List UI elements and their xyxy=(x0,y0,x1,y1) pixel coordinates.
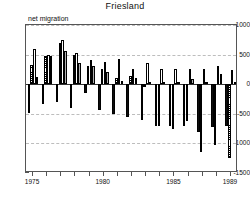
x-tick-label: 1989 xyxy=(223,178,237,185)
bar xyxy=(149,82,151,84)
bar xyxy=(177,82,179,84)
plot-area xyxy=(25,24,237,172)
bar xyxy=(205,82,207,84)
bar xyxy=(135,78,137,84)
x-tick-mark xyxy=(173,172,174,176)
bar xyxy=(200,84,202,152)
bar xyxy=(228,84,230,158)
x-tick-mark xyxy=(60,172,61,176)
bar xyxy=(234,82,236,84)
x-tick-mark xyxy=(202,172,203,176)
y-tick-mark xyxy=(25,172,29,173)
bar xyxy=(158,84,160,125)
gridline xyxy=(26,55,236,56)
x-tick-mark xyxy=(32,172,33,176)
bar xyxy=(92,66,94,84)
bar xyxy=(112,84,114,114)
bar xyxy=(70,84,72,108)
bar xyxy=(84,84,86,93)
chart-title: Friesland xyxy=(0,1,250,11)
x-tick-mark xyxy=(145,172,146,176)
x-tick-mark xyxy=(103,172,104,176)
gridline xyxy=(26,25,236,26)
x-tick-mark xyxy=(131,172,132,176)
x-tick-label: 1980 xyxy=(95,178,109,185)
x-tick-mark xyxy=(216,172,217,176)
bar xyxy=(56,84,58,102)
gridline xyxy=(26,143,236,144)
bar xyxy=(42,84,44,104)
x-tick-mark xyxy=(89,172,90,176)
bar xyxy=(126,84,128,117)
x-tick-mark xyxy=(74,172,75,176)
bar xyxy=(28,84,30,113)
bar xyxy=(186,84,188,121)
bar xyxy=(214,84,216,144)
x-tick-mark xyxy=(230,172,231,176)
chart-root: Friesland net migration 10005000-500-100… xyxy=(0,0,250,197)
bar xyxy=(50,56,52,84)
bar xyxy=(141,84,143,120)
bar xyxy=(172,84,174,129)
x-tick-mark xyxy=(188,172,189,176)
x-tick-mark xyxy=(46,172,47,176)
bar xyxy=(121,81,123,85)
bar xyxy=(98,84,100,110)
bar xyxy=(36,77,38,84)
x-tick-label: 1975 xyxy=(25,178,39,185)
bar xyxy=(191,79,193,84)
x-tick-label: 1985 xyxy=(166,178,180,185)
bar xyxy=(64,51,66,84)
bar xyxy=(78,63,80,84)
x-tick-mark xyxy=(159,172,160,176)
bar xyxy=(220,74,222,84)
y-axis-label: net migration xyxy=(28,15,68,22)
x-tick-mark xyxy=(117,172,118,176)
bar xyxy=(143,84,145,86)
bar xyxy=(163,82,165,84)
bar xyxy=(106,72,108,84)
gridline xyxy=(26,114,236,115)
